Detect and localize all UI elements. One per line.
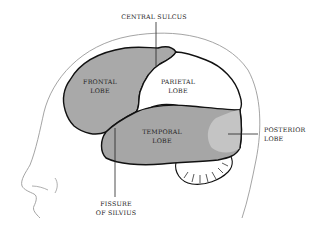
label-posterior-line2: LOBE xyxy=(264,135,284,142)
nostril xyxy=(32,186,48,190)
label-central-sulcus: CENTRAL SULCUS xyxy=(121,13,187,20)
brain-diagram: CENTRAL SULCUS FRONTAL LOBE PARIETAL LOB… xyxy=(0,0,324,231)
label-posterior-line1: POSTERIOR xyxy=(264,126,306,133)
label-frontal-line2: LOBE xyxy=(90,87,110,94)
label-parietal-line1: PARIETAL xyxy=(161,78,196,85)
label-fissure-line2: OF SILVIUS xyxy=(96,209,136,216)
label-fissure-line1: FISSURE xyxy=(100,200,132,207)
label-parietal-line2: LOBE xyxy=(168,87,188,94)
face-profile xyxy=(22,112,44,218)
label-temporal-line2: LOBE xyxy=(152,137,172,144)
label-frontal-line1: FRONTAL xyxy=(83,78,117,85)
label-temporal-line1: TEMPORAL xyxy=(142,128,182,135)
mouth-curve xyxy=(55,178,57,193)
